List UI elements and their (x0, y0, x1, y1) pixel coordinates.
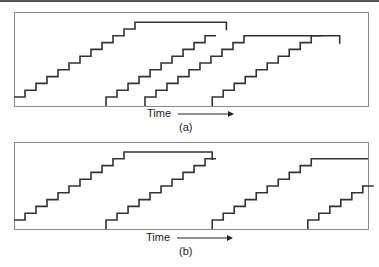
staircase-a-3 (145, 36, 340, 106)
panel-a-staircases (14, 22, 340, 106)
time-label-b: Time (146, 231, 170, 243)
staircase-b-3 (212, 159, 368, 229)
panel-b-staircases (14, 152, 374, 229)
staircase-a-1 (14, 22, 226, 97)
staircase-b-2 (106, 159, 216, 229)
figure-canvas (0, 0, 379, 267)
panel-b-frame (15, 143, 369, 230)
staircase-b-1 (14, 152, 212, 220)
panel-a-frame (15, 13, 369, 107)
staircase-b-4 (308, 186, 374, 229)
time-arrowhead-b (227, 235, 233, 241)
staircase-a-2 (106, 36, 216, 106)
panel-caption-b: (b) (179, 245, 192, 257)
time-arrowhead-a (228, 111, 234, 117)
staircase-a-4 (212, 36, 322, 106)
panel-caption-a: (a) (179, 121, 192, 133)
time-label-a: Time (147, 107, 171, 119)
